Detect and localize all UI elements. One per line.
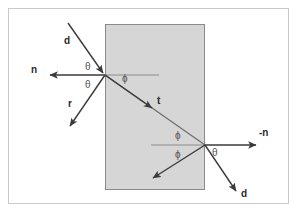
transmitted-ray-label: t	[157, 96, 160, 106]
ray-diagram	[0, 0, 299, 214]
phi-incident-exit-label: ϕ	[175, 131, 181, 141]
figure-root: d n r t -n d θ θ ϕ ϕ ϕ θ	[0, 0, 299, 214]
incident-ray-label: d	[64, 36, 70, 46]
exit-normal-label: -n	[259, 128, 268, 138]
theta-reflected-label: θ	[85, 80, 91, 90]
phi-internal-reflected-label: ϕ	[175, 150, 181, 160]
exit-ray	[205, 145, 236, 191]
reflected-ray-label: r	[68, 99, 72, 109]
theta-incident-label: θ	[85, 62, 91, 72]
exit-ray-label: d	[241, 189, 247, 199]
phi-refracted-entry-label: ϕ	[122, 74, 128, 84]
theta-exit-label: θ	[212, 148, 218, 158]
glass-slab	[106, 25, 205, 190]
incident-normal-label: n	[31, 65, 37, 75]
